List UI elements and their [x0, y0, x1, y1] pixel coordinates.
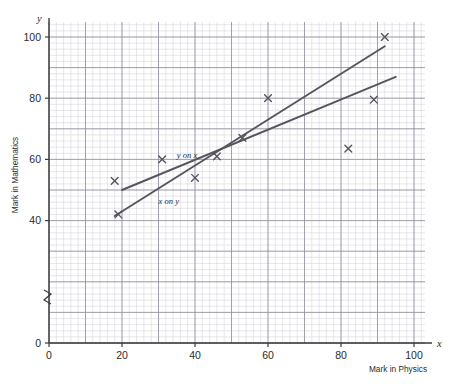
- x-tick-label: 100: [405, 349, 423, 361]
- chart-background: [0, 0, 453, 384]
- x-tick-label: 80: [335, 349, 347, 361]
- y-tick-label: 60: [29, 153, 41, 165]
- y-axis-title: Mark in Mathematics: [10, 137, 20, 214]
- y-tick-label: 80: [29, 92, 41, 104]
- regression-lines-chart: 020406080100 0406080100 y on xx on y y x…: [0, 0, 453, 384]
- x-axis-title: Mark in Physics: [369, 364, 427, 374]
- y-tick-label: 0: [35, 337, 41, 349]
- y-tick-label: 40: [29, 214, 41, 226]
- regression-line-label: y on x: [176, 150, 198, 160]
- x-tick-label: 40: [189, 349, 201, 361]
- x-axis-symbol-label: x: [436, 338, 442, 349]
- x-tick-label: 0: [46, 349, 52, 361]
- x-tick-label: 20: [116, 349, 128, 361]
- regression-line-label: x on y: [158, 196, 180, 206]
- x-tick-label: 60: [262, 349, 274, 361]
- y-axis-symbol-label: y: [36, 13, 42, 24]
- scatter-plot-figure: 020406080100 0406080100 y on xx on y y x…: [0, 0, 453, 384]
- y-tick-label: 100: [23, 31, 41, 43]
